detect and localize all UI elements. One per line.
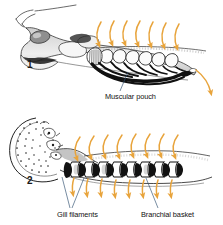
label-branchial-basket: Branchial basket: [141, 210, 194, 219]
panel2-gill-filaments: [64, 162, 183, 178]
panel-2-number: 2: [27, 176, 33, 186]
panel-1-number: 1: [27, 60, 33, 70]
panel1-posterior-opening: [190, 68, 197, 72]
label-muscular-pouch: Muscular pouch: [105, 92, 156, 101]
anatomical-figure: [0, 0, 223, 225]
label-gill-filaments: Gill filaments: [57, 210, 98, 219]
